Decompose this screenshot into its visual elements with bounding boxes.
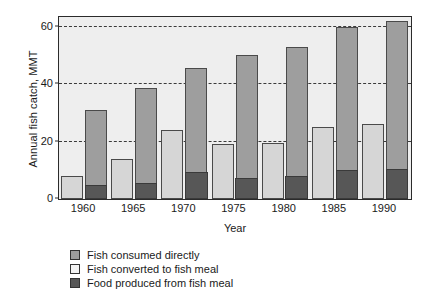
legend-label: Fish consumed directly bbox=[87, 249, 200, 261]
bar-fish-converted-1985 bbox=[312, 127, 334, 199]
bar-fish-consumed-1985 bbox=[336, 27, 358, 199]
legend-item-fish-consumed-directly: Fish consumed directly bbox=[70, 248, 233, 262]
bar-food-produced-1990 bbox=[386, 169, 408, 199]
bar-group-1965 bbox=[111, 17, 157, 199]
legend-label: Food produced from fish meal bbox=[87, 277, 233, 289]
y-tick-mark-20 bbox=[55, 140, 59, 141]
legend-swatch-gray-icon bbox=[70, 250, 80, 260]
bar-group-1980 bbox=[262, 17, 308, 199]
bar-fish-consumed-1965 bbox=[135, 88, 157, 199]
bar-group-1990 bbox=[362, 17, 408, 199]
bar-fish-converted-1975 bbox=[212, 144, 234, 199]
y-tick-mark-0 bbox=[55, 198, 59, 199]
legend-item-fish-converted-to-fish-meal: Fish converted to fish meal bbox=[70, 262, 233, 276]
legend-swatch-light-icon bbox=[70, 264, 80, 274]
x-axis-title: Year bbox=[58, 222, 412, 234]
y-tick-mark-60 bbox=[55, 25, 59, 26]
bar-group-1970 bbox=[161, 17, 207, 199]
legend-item-food-produced-from-fish-meal: Food produced from fish meal bbox=[70, 276, 233, 290]
bar-food-produced-1975 bbox=[235, 178, 257, 200]
bar-food-produced-1980 bbox=[285, 176, 307, 199]
bar-fish-consumed-1970 bbox=[185, 68, 207, 199]
plot-inner: 0204060 bbox=[59, 17, 411, 199]
legend-label: Fish converted to fish meal bbox=[87, 263, 218, 275]
bar-fish-converted-1990 bbox=[362, 124, 384, 199]
x-tick-label-1990: 1990 bbox=[354, 202, 414, 214]
bar-food-produced-1970 bbox=[185, 172, 207, 199]
bar-group-1960 bbox=[61, 17, 107, 199]
bar-fish-consumed-1990 bbox=[386, 21, 408, 199]
bar-food-produced-1985 bbox=[336, 170, 358, 199]
chart-legend: Fish consumed directly Fish converted to… bbox=[70, 248, 233, 290]
legend-swatch-dark-icon bbox=[70, 278, 80, 288]
bar-fish-consumed-1960 bbox=[85, 110, 107, 199]
y-tick-label-60: 60 bbox=[19, 20, 59, 32]
bar-group-1975 bbox=[212, 17, 258, 199]
bar-fish-consumed-1980 bbox=[286, 47, 308, 199]
bar-group-1985 bbox=[312, 17, 358, 199]
bar-fish-converted-1960 bbox=[61, 176, 83, 199]
y-tick-label-40: 40 bbox=[19, 77, 59, 89]
y-tick-mark-40 bbox=[55, 83, 59, 84]
bar-fish-converted-1980 bbox=[262, 143, 284, 199]
y-axis-title: Annual fish catch, MMT bbox=[27, 29, 39, 189]
plot-area: 0204060 bbox=[58, 16, 412, 200]
bar-fish-converted-1965 bbox=[111, 159, 133, 199]
bar-food-produced-1965 bbox=[135, 183, 157, 199]
bar-food-produced-1960 bbox=[85, 185, 107, 199]
fish-catch-bar-chart: Annual fish catch, MMT 0204060 196019651… bbox=[0, 0, 440, 290]
bar-fish-converted-1970 bbox=[161, 130, 183, 199]
bar-fish-consumed-1975 bbox=[236, 55, 258, 199]
y-tick-label-20: 20 bbox=[19, 135, 59, 147]
